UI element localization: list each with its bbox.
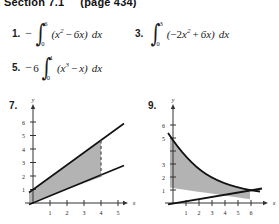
- y-tick-label-3: 3: [22, 160, 25, 166]
- x-tick-label-3: 3: [83, 210, 86, 216]
- upper-limit: 3: [159, 20, 162, 27]
- x-tick-label-4: 4: [224, 210, 227, 216]
- shaded-region-9: [170, 136, 250, 199]
- y-tick-label-1: 1: [162, 188, 165, 194]
- x-axis-arrow-9: [263, 201, 268, 205]
- x-axis-label-7: x: [132, 200, 136, 206]
- operator: −: [69, 62, 79, 74]
- problem-3-integrand: (−2x2+6x): [167, 27, 215, 40]
- operator: +: [190, 28, 200, 40]
- problem-1: 1. − ∫ 6 0 (x2−6x) dx: [12, 22, 102, 45]
- figure-9-number: 9.: [148, 100, 156, 111]
- x-tick-label-2: 2: [198, 210, 201, 216]
- term2: x: [79, 62, 84, 74]
- x-tick-label-5: 5: [237, 210, 240, 216]
- section-header: Section 7.1(page 434): [4, 0, 137, 8]
- shaded-region-7: [29, 141, 101, 204]
- problem-5-integrand: (x3−x): [57, 61, 88, 74]
- y-tick-label-5: 5: [22, 133, 25, 139]
- integral-sign-5: ∫ 1 0: [40, 56, 54, 79]
- problem-3: 3. ∫ 3 0 (−2x2+6x) dx: [135, 22, 229, 45]
- x-tick-label-1: 1: [185, 210, 188, 216]
- y-tick-label-3: 3: [162, 162, 165, 168]
- x-tick-label-4: 4: [100, 210, 103, 216]
- problem-5-coefficient: 6: [33, 62, 39, 74]
- problem-1-leading-sign: −: [25, 26, 32, 41]
- integral-sign-1: ∫ 6 0: [34, 22, 48, 45]
- y-axis-arrow-7: [31, 104, 35, 109]
- x-axis-arrow-7: [123, 201, 128, 205]
- answer-key-page: Section 7.1(page 434) 1. − ∫ 6 0 (x2−6x)…: [0, 0, 279, 224]
- page-reference: (page 434): [80, 0, 136, 8]
- lower-limit: 0: [156, 40, 159, 47]
- x-tick-label-1: 1: [49, 210, 52, 216]
- y-tick-label-4: 4: [22, 147, 25, 153]
- integral-limits-5: 1 0: [51, 56, 54, 79]
- problem-1-integrand: (x2−6x): [51, 27, 87, 40]
- y-tick-label-6: 6: [162, 123, 165, 129]
- section-title: Section 7.1: [4, 0, 64, 8]
- upper-limit: 1: [50, 54, 53, 61]
- x-axis-label-9: x: [272, 200, 276, 206]
- y-tick-label-2: 2: [22, 174, 25, 180]
- problem-5-differential: dx: [92, 62, 102, 74]
- y-tick-label-2: 2: [162, 175, 165, 181]
- figure-9-plot: 1 2 3 5 6 1 2 3 4 5 6 y x: [140, 96, 279, 224]
- integral-limits-1: 6 0: [45, 22, 48, 45]
- problem-3-differential: dx: [219, 28, 229, 40]
- lower-limit: 0: [47, 74, 50, 81]
- x-tick-label-2: 2: [66, 210, 69, 216]
- y-tick-label-5: 5: [162, 136, 165, 142]
- figure-7-number: 7.: [9, 100, 17, 111]
- figure-9: 9.: [140, 96, 279, 224]
- y-tick-label-6: 6: [22, 120, 25, 126]
- integral-sign-3: ∫ 3 0: [149, 22, 163, 45]
- x-tick-label-6: 6: [250, 210, 253, 216]
- problem-5-leading-sign: −: [25, 60, 32, 75]
- operator: −: [63, 28, 73, 40]
- upper-limit: 6: [44, 20, 47, 27]
- integral-limits-3: 3 0: [160, 22, 163, 45]
- figure-7-plot: 1 2 3 4 5 6 1 2 3 4 5 y x: [0, 96, 140, 224]
- term2: 6x: [201, 28, 211, 40]
- problem-1-number: 1.: [12, 28, 20, 39]
- figure-7: 7.: [0, 96, 140, 224]
- y-axis-label-7: y: [31, 97, 35, 103]
- y-tick-label-1: 1: [22, 187, 25, 193]
- x-tick-label-3: 3: [211, 210, 214, 216]
- problem-1-differential: dx: [92, 28, 102, 40]
- problem-3-number: 3.: [135, 28, 143, 39]
- term2: 6x: [74, 28, 84, 40]
- problem-5: 5. − 6 ∫ 1 0 (x3−x) dx: [12, 56, 102, 79]
- y-axis-label-9: y: [171, 97, 175, 103]
- lower-limit: 0: [41, 40, 44, 47]
- y-axis-arrow-9: [171, 104, 175, 109]
- problem-5-number: 5.: [12, 62, 20, 73]
- x-tick-label-5: 5: [117, 210, 120, 216]
